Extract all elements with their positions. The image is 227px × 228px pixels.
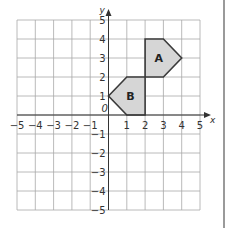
y-tick-label: −4: [91, 186, 106, 197]
x-tick-label: 4: [179, 120, 185, 131]
y-tick-label: −5: [91, 205, 106, 216]
x-tick-label: 3: [160, 120, 166, 131]
axes: xy0: [17, 5, 216, 210]
y-tick-label: 3: [99, 53, 105, 64]
shape-a: [145, 39, 182, 77]
y-axis-label: y: [99, 5, 106, 15]
x-tick-label: 1: [124, 120, 130, 131]
x-tick-label: −4: [28, 120, 43, 131]
y-tick-label: 4: [99, 34, 105, 45]
coordinate-grid-diagram: AB xy0 −5−4−3−2−112345−5−4−3−2−112345: [0, 0, 227, 228]
y-tick-label: 2: [99, 72, 105, 83]
x-axis-label: x: [209, 115, 216, 125]
y-tick-label: −3: [91, 167, 106, 178]
y-tick-label: 1: [99, 91, 105, 102]
y-tick-label: 5: [99, 15, 105, 26]
y-tick-label: −1: [91, 129, 106, 140]
y-axis-arrow-icon: [106, 9, 112, 16]
x-tick-label: 2: [142, 120, 148, 131]
shape-label-a: A: [155, 52, 164, 65]
x-tick-label: −2: [65, 120, 80, 131]
y-tick-label: −2: [91, 148, 106, 159]
origin-label: 0: [102, 103, 108, 114]
shape-label-b: B: [126, 90, 134, 103]
coordinate-plane: AB xy0 −5−4−3−2−112345−5−4−3−2−112345: [0, 0, 227, 228]
page-edge-rule: [223, 0, 225, 228]
x-tick-label: −5: [10, 120, 25, 131]
x-tick-label: 5: [197, 120, 203, 131]
x-tick-label: −3: [46, 120, 61, 131]
